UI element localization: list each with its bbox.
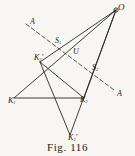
point-label-K1: K1 <box>8 97 16 105</box>
axis-label-A-upper: A <box>30 18 35 26</box>
label-base: A <box>117 89 122 98</box>
figure-116-container: OS1US2K3'K1K2K3'AA Fig. 116 <box>0 0 135 156</box>
label-subscript: 2 <box>96 67 98 72</box>
point-label-K3: K3' <box>34 54 43 62</box>
label-subscript: 1 <box>59 40 61 45</box>
label-base: A <box>30 17 35 26</box>
point-label-K2: K2 <box>80 96 88 104</box>
point-label-S1: S1 <box>55 37 61 45</box>
segments-group <box>14 10 116 135</box>
point-label-U: U <box>73 48 79 56</box>
label-subscript: 2 <box>85 99 87 104</box>
label-base: U <box>73 47 79 56</box>
ray-O-to-K2 <box>84 10 116 98</box>
point-label-O: O <box>118 3 125 12</box>
point-label-S2: S2 <box>92 64 98 72</box>
axis-label-A-lower: A <box>117 90 122 98</box>
label-base: O <box>118 2 125 12</box>
label-subscript: 1 <box>13 100 15 105</box>
side-K3-K3p <box>40 62 70 135</box>
figure-caption: Fig. 116 <box>0 141 135 153</box>
label-prime: ' <box>42 53 44 62</box>
side-K3-K2 <box>40 62 84 98</box>
